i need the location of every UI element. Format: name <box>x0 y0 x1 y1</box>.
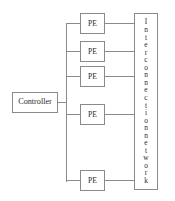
interconnection-network-box[interactable]: Interconnectionnetwork <box>134 13 158 190</box>
pe-box-5[interactable]: PE <box>80 170 105 191</box>
wire-pe-5-to-interconnect <box>104 180 135 181</box>
interconnection-network-label: Interconnectionnetwork <box>143 18 148 184</box>
pe-label-5: PE <box>88 177 97 185</box>
wire-pe-2-to-interconnect <box>104 51 135 52</box>
wire-pe-3-to-interconnect <box>104 76 135 77</box>
wire-bus-to-pe-5 <box>66 180 81 181</box>
controller-label: Controller <box>18 98 52 106</box>
pe-label-2: PE <box>88 48 97 56</box>
pe-box-4[interactable]: PE <box>80 104 105 125</box>
pe-label-4: PE <box>88 111 97 119</box>
pe-box-3[interactable]: PE <box>80 66 105 87</box>
wire-pe-4-to-interconnect <box>104 114 135 115</box>
interconnect-glyph-21: k <box>144 177 148 185</box>
wire-bus-to-pe-2 <box>66 51 81 52</box>
pe-box-1[interactable]: PE <box>80 13 105 34</box>
pe-box-2[interactable]: PE <box>80 41 105 62</box>
wire-bus-to-pe-4 <box>66 114 81 115</box>
block-diagram-canvas: Controller PE PE PE PE PE Interconnectio… <box>0 0 175 201</box>
wire-pe-1-to-interconnect <box>104 23 135 24</box>
controller-box[interactable]: Controller <box>12 92 58 113</box>
wire-bus-to-pe-1 <box>66 23 81 24</box>
wire-bus-to-pe-3 <box>66 76 81 77</box>
wire-controller-to-bus <box>58 102 67 103</box>
pe-label-1: PE <box>88 20 97 28</box>
pe-label-3: PE <box>88 73 97 81</box>
